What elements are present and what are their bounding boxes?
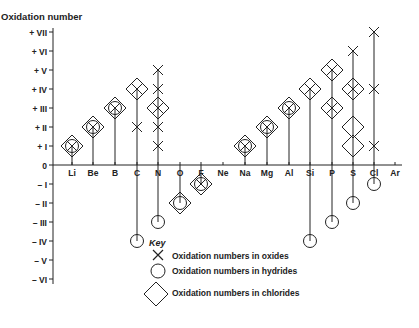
- y-tick-label: + VI: [32, 47, 47, 57]
- diamond-icon: [144, 282, 168, 306]
- axes: + VII+ VI+ V+ IV+ III+ II+ I0– I– II– II…: [29, 28, 402, 285]
- y-tick-label: – V: [34, 256, 47, 266]
- y-tick-label: + V: [34, 66, 47, 76]
- x-tick-label: Ar: [390, 168, 400, 178]
- legend-label: Oxidation numbers in hydrides: [172, 266, 297, 276]
- element-stems: [72, 32, 374, 241]
- y-tick-label: + IV: [32, 85, 48, 95]
- oxidation-number-chart: Oxidation number + VII+ VI+ V+ IV+ III+ …: [0, 0, 419, 328]
- data-markers: [61, 27, 381, 248]
- circle-icon: [151, 264, 165, 278]
- y-tick-label: + VII: [29, 28, 47, 38]
- x-tick-label: Al: [285, 168, 294, 178]
- y-tick-label: – II: [35, 199, 47, 209]
- legend-item-chlorides: Oxidation numbers in chlorides: [144, 282, 300, 306]
- y-tick-label: – III: [33, 218, 47, 228]
- y-tick-label: + I: [37, 142, 47, 152]
- x-tick-label: Mg: [261, 168, 273, 178]
- cross-icon: [153, 250, 163, 260]
- legend-label: Oxidation numbers in oxides: [172, 251, 289, 261]
- x-tick-label: Na: [240, 168, 251, 178]
- y-tick-label: 0: [42, 161, 47, 171]
- legend-label: Oxidation numbers in chlorides: [172, 288, 300, 298]
- legend-title: Key: [149, 238, 167, 248]
- y-tick-label: – I: [38, 180, 47, 190]
- y-tick-label: – IV: [32, 237, 47, 247]
- legend-item-hydrides: Oxidation numbers in hydrides: [151, 264, 297, 278]
- y-tick-label: + II: [35, 123, 47, 133]
- y-tick-label: – VI: [32, 275, 47, 285]
- x-tick-label: Be: [88, 168, 99, 178]
- y-axis-label: Oxidation number: [1, 11, 83, 22]
- y-tick-label: + III: [33, 104, 47, 114]
- legend: Key Oxidation numbers in oxides Oxidatio…: [144, 238, 300, 306]
- x-tick-label: Ne: [218, 168, 229, 178]
- x-tick-label: Li: [68, 168, 76, 178]
- legend-item-oxides: Oxidation numbers in oxides: [153, 250, 289, 261]
- x-tick-label: B: [112, 168, 118, 178]
